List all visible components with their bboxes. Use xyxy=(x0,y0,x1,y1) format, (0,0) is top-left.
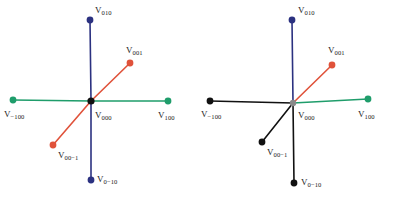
vector-line-v-010 xyxy=(90,20,91,101)
vertex-label-v--100-subscript: −100 xyxy=(208,113,222,120)
vertex-label-v-0-10: V0−10 xyxy=(97,175,118,184)
vertex-dot-v-0-10[interactable] xyxy=(88,177,95,184)
vertex-dot-v-001[interactable] xyxy=(127,60,134,67)
vertex-label-v-00-1-subscript: 00−1 xyxy=(65,154,79,161)
vector-line-v--100 xyxy=(13,100,91,101)
vertex-label-v--100: V−100 xyxy=(4,110,25,119)
vertex-label-v-001: V001 xyxy=(126,46,143,55)
vertex-label-v-0-10-subscript: 0−10 xyxy=(104,178,118,185)
vector-line-v-010 xyxy=(292,20,293,103)
vertex-dot-origin[interactable] xyxy=(87,97,94,104)
vertex-label-origin: V000 xyxy=(298,111,315,120)
vertex-label-v-010-subscript: 010 xyxy=(102,9,112,16)
vertex-label-v-00-1: V00−1 xyxy=(267,148,288,157)
vertex-label-v-00-1-subscript: 00−1 xyxy=(274,151,288,158)
vertex-dot-v-100[interactable] xyxy=(165,98,172,105)
vertex-label-v-0-10: V0−10 xyxy=(301,178,322,187)
vertex-label-v--100: V−100 xyxy=(201,110,222,119)
vertex-label-origin-subscript: 000 xyxy=(102,114,112,121)
right-panel-vector-graphic xyxy=(198,0,396,199)
vertex-label-v-001: V001 xyxy=(328,46,345,55)
vertex-dot-origin[interactable] xyxy=(290,100,296,106)
vertex-dot-v-001[interactable] xyxy=(329,62,336,69)
vertex-label-v-010-subscript: 010 xyxy=(305,9,315,16)
left-panel-vector-graphic xyxy=(0,0,198,199)
vector-line-v-001 xyxy=(293,65,332,103)
vertex-label-v-0-10-subscript: 0−10 xyxy=(308,181,322,188)
left-panel: V010V0−10V−100V100V001V00−1V000 xyxy=(0,0,198,199)
vertex-dot-v-010[interactable] xyxy=(289,17,296,24)
vertex-label-v-100-subscript: 100 xyxy=(365,113,375,120)
vertex-label-origin-subscript: 000 xyxy=(305,114,315,121)
figure-canvas: V010V0−10V−100V100V001V00−1V000 V010V0−1… xyxy=(0,0,397,199)
vertex-label-origin: V000 xyxy=(95,111,112,120)
vertex-dot-v-00-1[interactable] xyxy=(259,139,266,146)
vector-line-v--100 xyxy=(210,101,293,103)
vertex-label-v-100: V100 xyxy=(358,110,375,119)
vertex-label-v-100: V100 xyxy=(158,111,175,120)
vector-line-v-100 xyxy=(293,99,368,103)
vector-line-v-00-1 xyxy=(262,103,293,142)
vector-line-v-00-1 xyxy=(53,101,91,145)
right-panel: V010V0−10V−100V100V001V00−1V000 xyxy=(198,0,396,199)
vertex-label-v-010: V010 xyxy=(95,6,112,15)
vector-line-v-001 xyxy=(91,63,130,101)
vector-line-v-0-10 xyxy=(293,103,294,183)
vertex-label-v-010: V010 xyxy=(298,6,315,15)
vertex-dot-v-010[interactable] xyxy=(87,17,94,24)
vertex-dot-v--100[interactable] xyxy=(10,97,17,104)
vertex-label-v-00-1: V00−1 xyxy=(58,151,79,160)
vertex-dot-v--100[interactable] xyxy=(207,98,214,105)
vertex-dot-v-00-1[interactable] xyxy=(50,142,57,149)
vertex-label-v-001-subscript: 001 xyxy=(335,49,345,56)
vertex-label-v--100-subscript: −100 xyxy=(11,113,25,120)
vertex-dot-v-0-10[interactable] xyxy=(291,180,298,187)
vertex-label-v-001-subscript: 001 xyxy=(133,49,143,56)
vertex-label-v-100-subscript: 100 xyxy=(165,114,175,121)
vertex-dot-v-100[interactable] xyxy=(365,96,372,103)
